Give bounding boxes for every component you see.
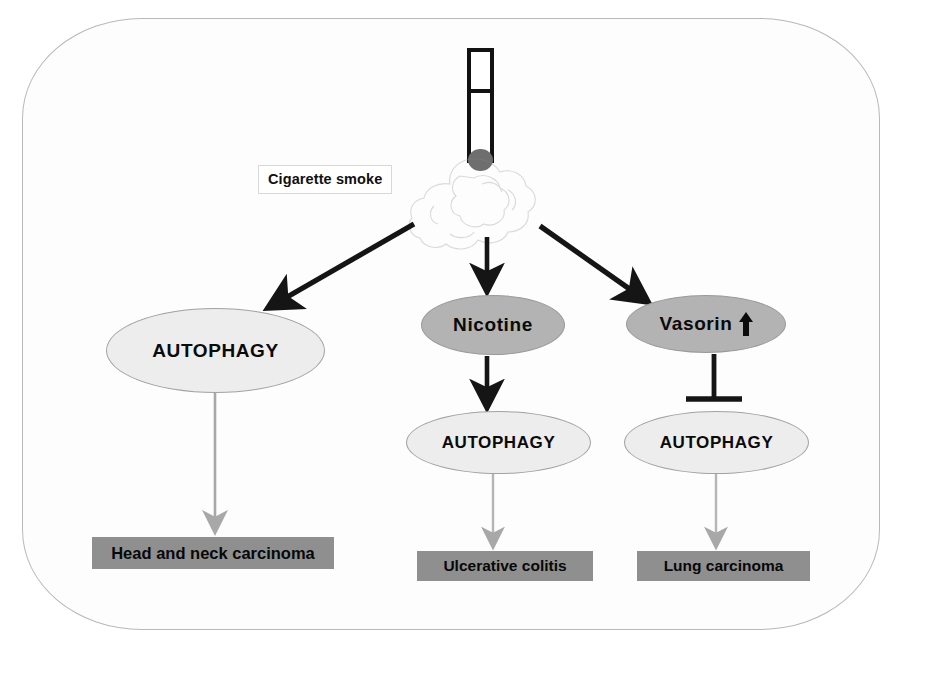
up-regulation-arrow-icon — [739, 312, 752, 336]
cigarette-body — [467, 48, 494, 163]
outcome-label: Lung carcinoma — [664, 557, 784, 575]
outcome-label: Head and neck carcinoma — [111, 544, 315, 563]
node-label: AUTOPHAGY — [152, 340, 278, 362]
node-vasorin: Vasorin — [626, 295, 786, 353]
figure-canvas: Cigarette smoke — [0, 0, 939, 684]
node-label: AUTOPHAGY — [660, 433, 774, 453]
cigarette-filter-line — [467, 89, 494, 93]
node-autophagy-left: AUTOPHAGY — [106, 308, 325, 393]
outcome-ulcerative-colitis: Ulcerative colitis — [417, 551, 593, 581]
node-autophagy-right: AUTOPHAGY — [624, 411, 809, 474]
node-label: Nicotine — [453, 314, 533, 336]
node-autophagy-mid: AUTOPHAGY — [406, 411, 591, 474]
smoke-cloud-icon — [404, 150, 564, 260]
node-label: AUTOPHAGY — [442, 433, 556, 453]
outcome-lung-carcinoma: Lung carcinoma — [637, 551, 810, 581]
outcome-head-and-neck-carcinoma: Head and neck carcinoma — [92, 537, 334, 569]
node-label: Vasorin — [660, 313, 733, 335]
node-nicotine: Nicotine — [421, 295, 565, 355]
outcome-label: Ulcerative colitis — [443, 557, 566, 575]
cigarette-smoke-label: Cigarette smoke — [258, 165, 392, 194]
